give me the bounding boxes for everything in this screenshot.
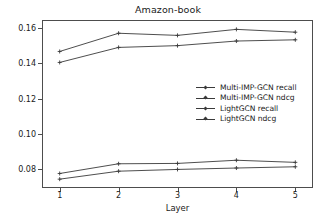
legend: Multi-IMP-GCN recall Multi-IMP-GCN ndcg … (196, 82, 322, 124)
x-tick-label: 3 (168, 191, 188, 200)
y-tick-label: 0.14 (2, 59, 36, 68)
y-tick-mark (38, 134, 42, 135)
y-tick-mark (38, 99, 42, 100)
legend-line-icon (196, 82, 215, 92)
y-tick-mark (38, 169, 42, 170)
chart-title: Amazon-book (0, 4, 336, 15)
x-tick-label: 2 (109, 191, 129, 200)
y-tick-label: 0.10 (2, 130, 36, 139)
x-tick-label: 4 (226, 191, 246, 200)
x-tick-label: 5 (285, 191, 305, 200)
x-tick-label: 1 (50, 191, 70, 200)
legend-line-icon (196, 103, 215, 113)
legend-label: Multi-IMP-GCN ndcg (220, 93, 295, 102)
y-tick-mark (38, 63, 42, 64)
y-tick-mark (38, 28, 42, 29)
y-tick-label: 0.16 (2, 23, 36, 32)
legend-line-icon (196, 93, 215, 103)
legend-label: LightGCN recall (220, 104, 278, 113)
legend-item: LightGCN recall (196, 103, 322, 114)
legend-item: Multi-IMP-GCN recall (196, 82, 322, 93)
legend-line-icon (196, 114, 215, 124)
x-axis-label: Layer (42, 203, 313, 213)
legend-item: Multi-IMP-GCN ndcg (196, 93, 322, 104)
y-tick-label: 0.08 (2, 165, 36, 174)
chart-figure: Amazon-book 0.080.100.120.140.16 12345 L… (0, 0, 336, 221)
legend-label: Multi-IMP-GCN recall (220, 83, 296, 92)
legend-label: LightGCN ndcg (220, 114, 276, 123)
legend-item: LightGCN ndcg (196, 114, 322, 125)
y-tick-label: 0.12 (2, 94, 36, 103)
